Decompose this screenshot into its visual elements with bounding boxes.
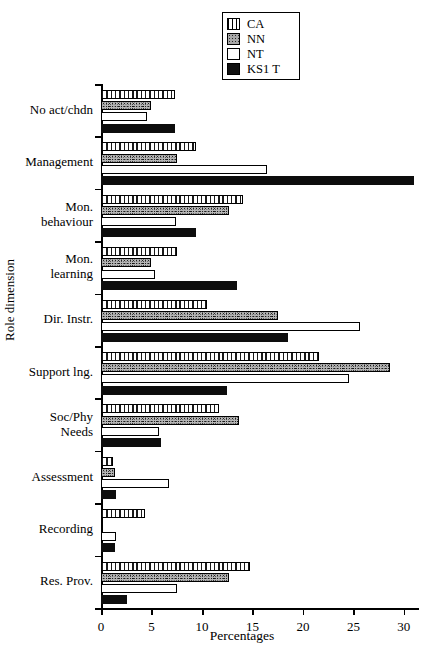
category-label: Dir. Instr. [0,311,93,326]
category-label: Management [0,154,93,169]
category-label: Mon. learning [0,251,93,281]
bar-ks1-t [101,595,127,604]
bar-nn [101,101,151,110]
category-label: Assessment [0,469,93,484]
bar-nt [101,270,155,279]
bar-nn [101,258,151,267]
category-label: Mon. behaviour [0,199,93,229]
category-label: No act/chdn [0,102,93,117]
bar-nn [101,468,115,477]
bar-nn [101,154,177,163]
x-axis-label: Percentages [0,628,426,644]
y-axis-tick [95,346,103,348]
bar-ks1-t [101,543,115,552]
bar-ca [101,404,219,413]
x-axis-tick [202,608,204,615]
bar-ca [101,195,243,204]
legend-swatch-icon [227,18,240,30]
legend-item-label: CA [247,18,264,30]
bar-nt [101,112,147,121]
y-axis-tick [95,398,103,400]
plot-area [101,84,419,608]
x-axis-tick-label: 0 [98,619,105,635]
category-label: Res. Prov. [0,573,93,588]
chart-legend: CANNNTKS1 T [222,12,300,80]
legend-item-nt: NT [227,46,294,61]
bar-nt [101,322,360,331]
y-axis-tick [95,189,103,191]
bar-ca [101,457,113,466]
bar-nn [101,573,229,582]
x-axis-tick [404,608,406,615]
legend-item-ca: CA [227,16,294,31]
x-axis-line [101,608,419,610]
bar-nt [101,584,177,593]
y-axis-tick [95,503,103,505]
x-axis-tick-label: 15 [246,619,259,635]
bar-ca [101,562,250,571]
y-axis-tick [95,608,103,610]
y-axis-tick [95,451,103,453]
bar-nt [101,165,267,174]
x-axis-tick-label: 30 [397,619,410,635]
bar-ca [101,352,319,361]
legend-swatch-icon [227,33,240,45]
y-axis-tick [95,136,103,138]
bar-nt [101,532,116,541]
bar-ca [101,300,207,309]
bar-nt [101,374,349,383]
x-axis-tick [252,608,254,615]
legend-item-nn: NN [227,31,294,46]
category-label: Support lng. [0,364,93,379]
bar-nn [101,206,229,215]
x-axis-tick-label: 10 [195,619,208,635]
bar-nt [101,217,176,226]
x-axis-tick-label: 20 [296,619,309,635]
bar-nn [101,416,239,425]
bar-ks1-t [101,228,196,237]
x-axis-tick [353,608,355,615]
legend-item-ks1-t: KS1 T [227,61,294,76]
bar-ks1-t [101,490,116,499]
y-axis-tick [95,84,103,86]
legend-item-label: NN [247,33,265,45]
legend-item-label: KS1 T [247,63,280,75]
legend-item-label: NT [247,48,264,60]
chart-figure: CANNNTKS1 T Role dimension Percentages 0… [0,0,426,656]
bar-ks1-t [101,386,227,395]
x-axis-tick [303,608,305,615]
bar-nn [101,311,278,320]
x-axis-tick-label: 25 [347,619,360,635]
x-axis-tick [151,608,153,615]
bar-ks1-t [101,176,414,185]
x-axis-tick-label: 5 [148,619,155,635]
bar-ca [101,142,196,151]
bar-ks1-t [101,124,175,133]
y-axis-tick [95,556,103,558]
bar-nt [101,479,169,488]
bar-ca [101,509,145,518]
x-axis-label-text: Percentages [210,628,274,644]
y-axis-tick [95,241,103,243]
category-label: Recording [0,521,93,536]
bar-ks1-t [101,438,161,447]
bar-nt [101,427,159,436]
legend-swatch-icon [227,48,240,60]
y-axis-tick [95,294,103,296]
bar-nn [101,363,390,372]
legend-swatch-icon [227,63,240,75]
bar-ca [101,90,175,99]
bar-ks1-t [101,333,288,342]
bar-ks1-t [101,281,237,290]
category-label: Soc/Phy Needs [0,409,93,439]
bar-ca [101,247,177,256]
